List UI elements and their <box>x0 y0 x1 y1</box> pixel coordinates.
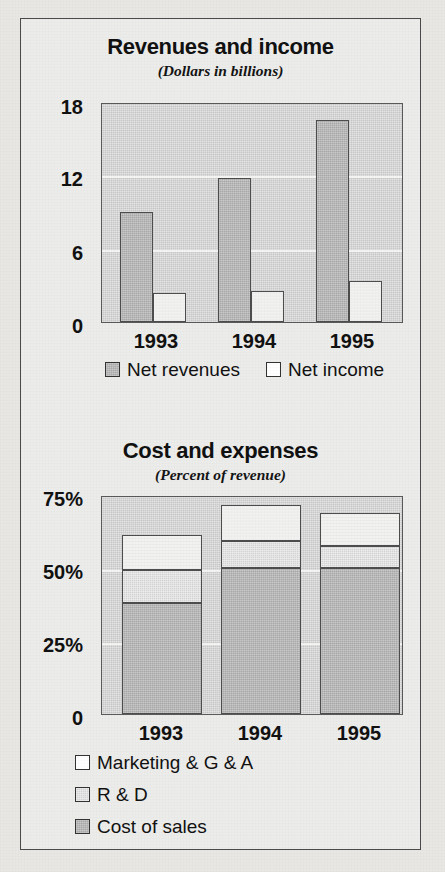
legend-item-marketing[interactable]: Marketing & G & A <box>75 753 253 772</box>
bottom-ytick-25: 25% <box>27 635 83 655</box>
legend-swatch-rnd-icon <box>75 787 90 802</box>
bar-net-revenues-1993 <box>120 212 153 322</box>
legend-label-net-income: Net income <box>288 360 384 379</box>
top-ytick-12: 12 <box>31 169 83 189</box>
bar-net-income-1994 <box>251 291 284 322</box>
stack-rnd-1995 <box>320 546 400 568</box>
top-xtick-1995: 1995 <box>315 331 389 351</box>
stack-cost-of-sales-1995 <box>320 568 400 714</box>
bottom-ytick-75: 75% <box>27 489 83 509</box>
legend-swatch-net-revenues-icon <box>105 362 120 377</box>
legend-swatch-net-income-icon <box>266 362 281 377</box>
legend-item-rnd[interactable]: R & D <box>75 785 148 804</box>
top-ytick-6: 6 <box>31 243 83 263</box>
stack-marketing-1993 <box>122 535 202 570</box>
top-plot-area <box>101 103 403 323</box>
stack-marketing-1994 <box>221 505 301 541</box>
bar-net-revenues-1994 <box>218 178 251 322</box>
bar-net-revenues-1995 <box>316 120 349 322</box>
top-xtick-1993: 1993 <box>119 331 193 351</box>
bottom-chart-title: Cost and expenses <box>21 439 420 462</box>
legend-item-cost-of-sales[interactable]: Cost of sales <box>75 817 207 836</box>
legend-item-net-income[interactable]: Net income <box>266 360 384 379</box>
top-chart-title: Revenues and income <box>21 35 420 58</box>
bottom-ytick-0: 0 <box>27 708 83 728</box>
legend-label-cost-of-sales: Cost of sales <box>97 817 207 836</box>
bottom-chart-subtitle: (Percent of revenue) <box>21 466 420 484</box>
bar-net-income-1995 <box>349 281 382 322</box>
legend-item-net-revenues[interactable]: Net revenues <box>105 360 240 379</box>
stack-rnd-1994 <box>221 541 301 568</box>
bar-net-income-1993 <box>153 293 186 322</box>
legend-swatch-cost-of-sales-icon <box>75 819 90 834</box>
stack-cost-of-sales-1994 <box>221 568 301 714</box>
bottom-plot-area <box>101 496 403 715</box>
stack-marketing-1995 <box>320 513 400 546</box>
bottom-ytick-50: 50% <box>27 562 83 582</box>
legend-label-marketing: Marketing & G & A <box>97 753 253 772</box>
top-chart-subtitle: (Dollars in billions) <box>21 62 420 80</box>
legend-swatch-marketing-icon <box>75 755 90 770</box>
stack-rnd-1993 <box>122 570 202 603</box>
bottom-xtick-1995: 1995 <box>319 723 399 743</box>
figure-panel: Revenues and income (Dollars in billions… <box>20 18 421 850</box>
top-ytick-0: 0 <box>31 316 83 336</box>
legend-label-net-revenues: Net revenues <box>127 360 240 379</box>
bottom-xtick-1993: 1993 <box>121 723 201 743</box>
top-gridline-12 <box>102 176 402 178</box>
stack-cost-of-sales-1993 <box>122 603 202 714</box>
top-ytick-18: 18 <box>31 97 83 117</box>
bottom-xtick-1994: 1994 <box>220 723 300 743</box>
top-xtick-1994: 1994 <box>217 331 291 351</box>
legend-label-rnd: R & D <box>97 785 148 804</box>
